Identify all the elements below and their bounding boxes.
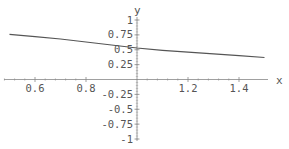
chart-plot: 0.60.81.21.410.750.50.25-0.25-0.5-0.75-1… — [0, 0, 289, 149]
y-tick-label: 0.75 — [108, 28, 133, 40]
y-tick-label: -0.75 — [101, 118, 133, 130]
y-tick-label: 1 — [127, 14, 133, 26]
x-axis-label: x — [276, 74, 283, 87]
y-tick-label: -1 — [120, 133, 133, 145]
y-axis-label: y — [134, 4, 141, 17]
x-tick-label: 0.8 — [77, 82, 96, 94]
x-tick-label: 1.4 — [230, 82, 249, 94]
x-tick-label: 1.2 — [179, 82, 198, 94]
axes — [4, 17, 268, 141]
x-tick-label: 0.6 — [26, 82, 45, 94]
y-tick-label: -0.5 — [108, 103, 133, 115]
y-tick-label: -0.25 — [101, 88, 133, 100]
y-tick-label: 0.25 — [108, 58, 133, 70]
